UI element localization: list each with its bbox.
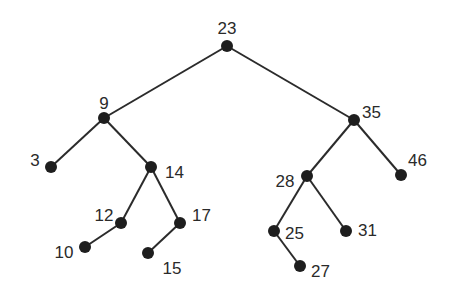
node-label-46: 46 xyxy=(408,151,427,170)
node-label-23: 23 xyxy=(218,19,237,38)
node-label-14: 14 xyxy=(165,163,184,182)
node-label-31: 31 xyxy=(358,221,377,240)
edge-35-46 xyxy=(354,120,401,175)
edge-23-9 xyxy=(104,46,227,118)
node-9 xyxy=(98,112,110,124)
node-27 xyxy=(294,260,306,272)
node-label-10: 10 xyxy=(55,243,74,262)
node-46 xyxy=(395,169,407,181)
node-14 xyxy=(145,161,157,173)
edge-23-35 xyxy=(227,46,354,120)
node-28 xyxy=(301,170,313,182)
node-label-27: 27 xyxy=(311,262,330,281)
edge-28-31 xyxy=(307,176,346,231)
edge-35-28 xyxy=(307,120,354,176)
node-35 xyxy=(348,114,360,126)
edge-17-15 xyxy=(148,223,180,253)
edge-12-10 xyxy=(85,223,121,247)
edge-14-12 xyxy=(121,167,151,223)
node-3 xyxy=(45,161,57,173)
node-15 xyxy=(142,247,154,259)
node-label-12: 12 xyxy=(95,206,114,225)
node-label-3: 3 xyxy=(30,151,39,170)
node-label-9: 9 xyxy=(99,94,108,113)
edge-9-14 xyxy=(104,118,151,167)
node-25 xyxy=(268,225,280,237)
node-12 xyxy=(115,217,127,229)
node-label-17: 17 xyxy=(192,206,211,225)
tree-labels: 23935314121710152846253127 xyxy=(30,19,427,281)
node-17 xyxy=(174,217,186,229)
edge-9-3 xyxy=(51,118,104,167)
node-label-15: 15 xyxy=(163,259,182,278)
node-10 xyxy=(79,241,91,253)
node-23 xyxy=(221,40,233,52)
tree-canvas: 23935314121710152846253127 xyxy=(0,0,455,291)
node-label-28: 28 xyxy=(276,172,295,191)
binary-search-tree-diagram: 23935314121710152846253127 xyxy=(0,0,455,291)
node-label-25: 25 xyxy=(285,224,304,243)
node-label-35: 35 xyxy=(362,103,381,122)
node-31 xyxy=(340,225,352,237)
